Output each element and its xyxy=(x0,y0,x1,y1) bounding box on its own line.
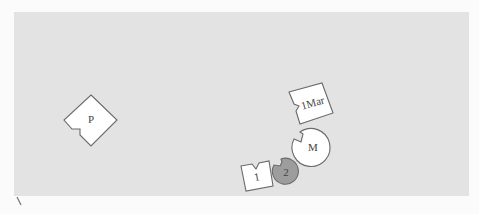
node-2[interactable]: 2 xyxy=(272,158,298,184)
node-label: 2 xyxy=(283,166,289,178)
node-label: P xyxy=(88,113,94,125)
node-1mar[interactable]: 1Mar xyxy=(289,83,333,124)
node-1[interactable]: 1 xyxy=(241,161,273,191)
node-m[interactable]: M xyxy=(292,128,330,166)
node-p[interactable]: P xyxy=(64,95,117,146)
node-label: M xyxy=(308,141,318,153)
stray-mark xyxy=(17,197,21,205)
diagram-svg: P 1Mar M 1 2 xyxy=(0,0,479,214)
